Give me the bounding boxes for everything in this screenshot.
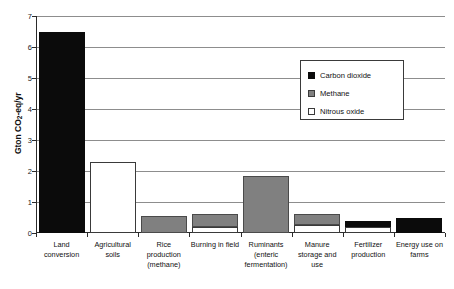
x-axis-tick-mark [343,233,344,237]
legend-item[interactable]: Carbon dioxide [308,66,403,84]
x-axis-category-label: Fertilizer production [343,240,394,270]
y-axis-title-post: -eq/yr [13,92,23,115]
bar-segment-ch4[interactable] [141,216,187,233]
bar-segment-ch4[interactable] [294,214,340,225]
bar-segment-n2o[interactable] [90,162,136,233]
x-axis-tick-mark [292,233,293,237]
bar-slot [343,16,394,233]
y-axis-title: Gton CO2-eq/yr [13,58,23,188]
x-axis-tick-mark [241,233,242,237]
x-axis-labels: Land conversionAgricultural soilsRice pr… [36,240,445,270]
bar-segment-ch4[interactable] [192,214,238,226]
bar-stack[interactable] [141,216,187,233]
bar-segment-ch4[interactable] [243,176,289,233]
bar-segment-co2[interactable] [39,32,85,234]
ghg-emissions-bar-chart: 01234567 Gton CO2-eq/yr Land conversionA… [0,0,454,289]
x-axis-tick-mark [36,233,37,237]
legend-label: Nitrous oxide [320,107,364,116]
bar-series-group [36,16,445,233]
legend: Carbon dioxideMethaneNitrous oxide [300,60,404,120]
bar-stack[interactable] [192,214,238,233]
legend-item[interactable]: Methane [308,84,403,102]
x-axis-category-label: Energy use on farms [394,240,445,270]
x-axis-tick-mark [87,233,88,237]
bar-stack[interactable] [39,32,85,234]
bar-stack[interactable] [345,221,391,233]
bar-segment-n2o[interactable] [294,225,340,233]
legend-item[interactable]: Nitrous oxide [308,102,403,120]
bar-slot [394,16,445,233]
x-axis-category-label: Ruminants (enteric fermentation) [241,240,292,270]
x-axis-category-label: Agricultural soils [87,240,138,270]
x-axis-tick-mark [138,233,139,237]
legend-swatch-ch4 [308,90,315,97]
x-axis-category-label: Burning in field [189,240,240,270]
legend-swatch-co2 [308,72,315,79]
bar-slot [292,16,343,233]
bar-stack[interactable] [294,214,340,233]
bar-segment-co2[interactable] [396,218,442,234]
x-axis-ticks [36,233,445,237]
x-axis-category-label: Land conversion [36,240,87,270]
bar-slot [138,16,189,233]
bar-stack[interactable] [396,218,442,234]
y-axis-tick-label: 7 [18,12,32,21]
x-axis-category-label: Manure storage and use [292,240,343,270]
legend-label: Methane [320,89,350,98]
x-axis-tick-mark [445,233,446,237]
bar-slot [87,16,138,233]
y-axis-tick-label: 1 [18,198,32,207]
bar-slot [189,16,240,233]
legend-swatch-n2o [308,108,315,115]
bar-slot [241,16,292,233]
bar-stack[interactable] [243,176,289,233]
y-axis-tick-label: 6 [18,43,32,52]
bar-slot [36,16,87,233]
x-axis-category-label: Rice production (methane) [138,240,189,270]
y-axis-tick-label: 0 [18,229,32,238]
y-axis-title-pre: Gton CO [13,119,23,154]
legend-label: Carbon dioxide [320,71,371,80]
y-axis-title-subscript: 2 [16,116,23,120]
x-axis-tick-mark [189,233,190,237]
x-axis-tick-mark [394,233,395,237]
bar-stack[interactable] [90,162,136,233]
